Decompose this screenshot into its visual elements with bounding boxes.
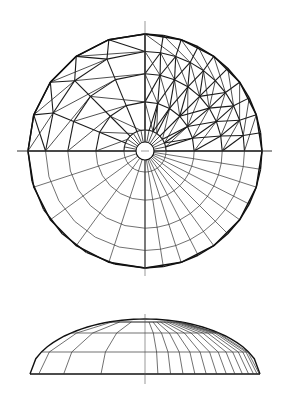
strut-ring bbox=[163, 139, 165, 143]
strut-ring bbox=[110, 106, 126, 117]
strut-ring bbox=[192, 138, 194, 151]
concentric-ring bbox=[167, 191, 174, 195]
strut-ring bbox=[145, 74, 160, 75]
radial-spoke bbox=[154, 152, 261, 169]
strut-ring bbox=[243, 135, 244, 151]
concentric-ring bbox=[221, 151, 222, 163]
concentric-ring bbox=[160, 195, 167, 198]
strut-diagonal bbox=[176, 40, 181, 57]
strut-cross bbox=[145, 102, 153, 132]
concentric-ring bbox=[176, 240, 190, 246]
strut-ring bbox=[188, 87, 200, 97]
concentric-ring bbox=[148, 171, 151, 172]
elevation-meridian bbox=[177, 322, 248, 374]
strut-diagonal bbox=[175, 62, 191, 79]
strut-diagonal bbox=[75, 56, 77, 80]
radial-spoke bbox=[151, 157, 227, 233]
strut-spoke bbox=[133, 133, 140, 143]
strut-cross bbox=[160, 75, 170, 108]
strut-cross bbox=[244, 115, 256, 151]
strut-ring bbox=[96, 132, 100, 151]
concentric-ring bbox=[46, 151, 49, 177]
elevation-meridian bbox=[181, 322, 260, 374]
strut-cross bbox=[90, 96, 145, 101]
elevation-view bbox=[30, 314, 260, 384]
strut-ring bbox=[188, 126, 193, 138]
strut-cross bbox=[96, 139, 128, 151]
strut-spoke bbox=[130, 136, 139, 145]
concentric-ring bbox=[189, 166, 192, 173]
strut-ring bbox=[145, 102, 158, 104]
strut-diagonal bbox=[109, 40, 145, 52]
plan-view bbox=[17, 21, 272, 276]
concentric-ring bbox=[125, 226, 145, 229]
concentric-ring bbox=[243, 151, 244, 167]
radial-spoke bbox=[152, 156, 239, 219]
strut-spoke bbox=[137, 132, 142, 143]
strut-spoke bbox=[141, 130, 143, 142]
strut-cross bbox=[74, 106, 127, 122]
strut-diagonal bbox=[216, 120, 239, 121]
strut-diagonal bbox=[175, 56, 176, 79]
strut-diagonal bbox=[115, 80, 126, 106]
strut-ring bbox=[137, 130, 141, 131]
radial-spoke bbox=[154, 154, 257, 187]
strut-ring bbox=[234, 106, 240, 120]
strut-ring bbox=[124, 143, 125, 147]
strut-spoke bbox=[150, 133, 157, 143]
strut-diagonal bbox=[190, 47, 198, 63]
concentric-ring bbox=[190, 231, 203, 239]
concentric-ring bbox=[185, 173, 189, 180]
elevation-meridian bbox=[180, 322, 257, 374]
concentric-ring bbox=[145, 200, 153, 201]
strut-ring bbox=[153, 132, 157, 134]
strut-spoke bbox=[148, 132, 153, 143]
strut-diagonal bbox=[161, 35, 164, 52]
concentric-ring bbox=[194, 151, 195, 159]
strut-spoke bbox=[127, 139, 137, 146]
concentric-ring bbox=[164, 158, 165, 161]
strut-ring bbox=[157, 133, 160, 136]
strut-ring bbox=[53, 81, 75, 113]
radial-spoke bbox=[150, 158, 213, 245]
strut-diagonal bbox=[240, 115, 257, 120]
strut-ring bbox=[126, 102, 145, 106]
concentric-ring bbox=[96, 151, 98, 164]
geodesic-dome-drawing bbox=[0, 0, 284, 397]
strut-ring bbox=[127, 136, 130, 139]
strut-ring bbox=[203, 71, 215, 81]
concentric-ring bbox=[145, 227, 157, 228]
strut-ring bbox=[240, 120, 244, 135]
strut-cross bbox=[110, 116, 141, 130]
concentric-ring bbox=[132, 198, 145, 200]
strut-ring bbox=[145, 52, 161, 53]
concentric-ring bbox=[169, 220, 180, 225]
elevation-meridian bbox=[164, 322, 206, 374]
concentric-ring bbox=[124, 151, 125, 156]
strut-diagonal bbox=[160, 56, 176, 75]
strut-cross bbox=[243, 98, 249, 136]
elevation-meridian bbox=[64, 322, 120, 374]
strut-spoke bbox=[153, 143, 164, 148]
concentric-ring bbox=[234, 182, 240, 196]
concentric-ring bbox=[214, 175, 219, 186]
strut-diagonal bbox=[34, 113, 53, 115]
strut-diagonal bbox=[76, 56, 107, 59]
radial-spoke bbox=[153, 155, 249, 204]
strut-cross bbox=[100, 132, 134, 133]
concentric-ring bbox=[68, 151, 71, 171]
strut-ring bbox=[74, 96, 91, 121]
strut-diagonal bbox=[50, 82, 53, 113]
concentric-ring bbox=[180, 180, 185, 186]
strut-diagonal bbox=[234, 98, 250, 106]
strut-ring bbox=[133, 132, 137, 134]
elevation-meridian bbox=[149, 322, 158, 374]
strut-cross bbox=[50, 59, 107, 82]
concentric-ring bbox=[157, 166, 160, 168]
radial-spoke bbox=[146, 160, 163, 267]
concentric-ring bbox=[162, 161, 164, 164]
strut-spoke bbox=[151, 136, 160, 145]
strut-spoke bbox=[154, 147, 166, 149]
concentric-ring bbox=[140, 171, 145, 172]
strut-diagonal bbox=[225, 82, 239, 92]
